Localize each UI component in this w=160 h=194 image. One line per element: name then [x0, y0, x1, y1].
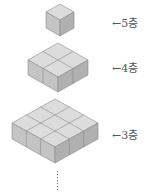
layer-3-label: ←3층 — [112, 126, 138, 142]
left-arrow-icon: ← — [112, 129, 121, 142]
left-arrow-icon: ← — [112, 17, 121, 30]
layer-4-cubes — [28, 43, 88, 92]
layer-5-cubes — [46, 4, 74, 36]
layer-4-label: ←4층 — [112, 59, 138, 75]
continuation-dots — [57, 171, 58, 190]
left-arrow-icon: ← — [112, 62, 121, 75]
layer-3-cubes — [12, 99, 98, 163]
layer-5-label: ←5층 — [112, 14, 138, 30]
